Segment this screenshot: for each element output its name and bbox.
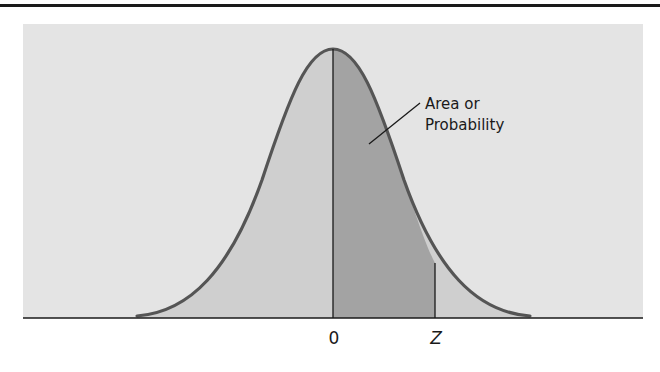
annotation-line-1: Area or: [425, 94, 504, 115]
annotation-line-2: Probability: [425, 115, 504, 136]
area-probability-annotation: Area or Probability: [425, 94, 504, 136]
normal-distribution-figure: [0, 0, 660, 372]
axis-label-z: Z: [430, 328, 442, 348]
axis-label-zero: 0: [329, 328, 340, 348]
